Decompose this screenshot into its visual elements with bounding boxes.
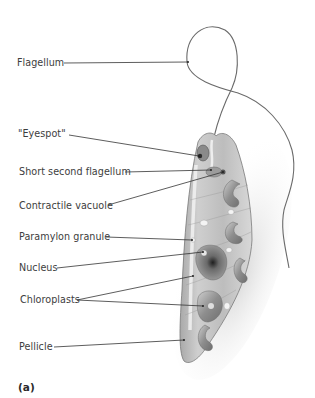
euglena-diagram: Flagellum "Eyespot" Short second flagell…	[0, 0, 315, 398]
label-paramylon-granule: Paramylon granule	[19, 231, 110, 243]
leader-eyespot	[69, 135, 199, 156]
panel-label: (a)	[18, 381, 35, 393]
leader-flagellum	[64, 62, 188, 63]
label-contractile-vacuole: Contractile vacuole	[19, 200, 113, 212]
label-eyespot: "Eyespot"	[18, 128, 66, 140]
leader-pellicle	[54, 340, 184, 347]
leader-paramylon	[106, 237, 192, 240]
label-chloroplasts: Chloroplasts	[20, 294, 80, 306]
label-pellicle: Pellicle	[19, 341, 53, 353]
label-flagellum: Flagellum	[17, 57, 64, 69]
label-nucleus: Nucleus	[19, 262, 58, 274]
label-short-second-flagellum: Short second flagellum	[19, 166, 131, 178]
